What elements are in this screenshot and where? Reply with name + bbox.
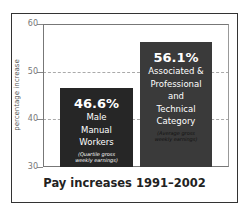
bar-category-line: and [140, 90, 212, 103]
bar-male-manual-workers: 46.6% Male Manual Workers (Quartile gros… [60, 88, 133, 167]
tick-label-50: 50 [24, 68, 38, 76]
chart-title: Pay increases 1991–2002 [11, 176, 238, 190]
bar-category-line: Associated & [140, 65, 212, 78]
bar-category-line: Technical [140, 103, 212, 116]
tick-label-60: 60 [24, 20, 38, 28]
bar-category-line: Category [140, 115, 212, 128]
bar-category-line: Manual [60, 124, 133, 137]
bar-category-line: Male [60, 111, 133, 124]
bar-note: (Average grossweekly earnings) [140, 130, 212, 142]
y-axis-label: percentage increase [13, 59, 21, 131]
bar-value-label: 46.6% [60, 96, 133, 111]
bar-note: (Quartile grossweekly earnings) [60, 151, 133, 163]
bar-value-label: 56.1% [140, 50, 212, 65]
tick-label-30: 30 [24, 163, 38, 171]
tick-label-40: 40 [24, 115, 38, 123]
bar-associated-professional-technical: 56.1% Associated & Professional and Tech… [140, 42, 212, 167]
bar-category-line: Professional [140, 78, 212, 91]
bar-category-line: Workers [60, 136, 133, 149]
